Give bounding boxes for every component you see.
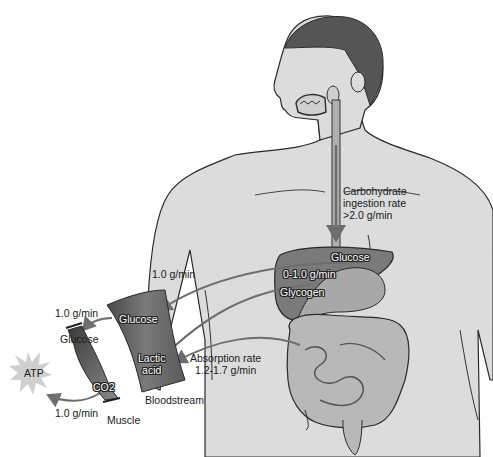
liver-glycogen-label: Glycogen — [280, 286, 324, 298]
esophagus — [332, 100, 340, 250]
absorption-rate-label: Absorption rate 1.2-1.7 g/min — [190, 352, 261, 376]
blood-lactic-acid-label: Lactic acid — [138, 352, 165, 376]
muscle-label: Muscle — [107, 414, 140, 426]
absorption-line-1: Absorption rate — [190, 352, 261, 364]
atp-label: ATP — [24, 367, 44, 379]
bloodstream-label: Bloodstream — [145, 394, 204, 406]
muscle-co2-label: CO2 — [93, 381, 115, 393]
ingestion-rate-label: Carbohydrate ingestion rate >2.0 g/min — [343, 185, 407, 221]
anatomy-illustration — [0, 0, 493, 457]
muscle-out-rate-label: 1.0 g/min — [55, 407, 98, 419]
muscle-in-rate-label: 1.0 g/min — [55, 307, 98, 319]
liver-glucose-label: Glucose — [331, 251, 370, 263]
lactic-line-2: acid — [138, 364, 165, 376]
lactic-line-1: Lactic — [138, 352, 165, 364]
liver-rate-label: 0-1.0 g/min — [283, 268, 336, 280]
head — [274, 16, 383, 140]
liver-to-blood-rate-label: 1.0 g/min — [152, 268, 195, 280]
ingestion-line-3: >2.0 g/min — [343, 209, 407, 221]
diagram-canvas: Carbohydrate ingestion rate >2.0 g/min G… — [0, 0, 493, 457]
ingestion-line-2: ingestion rate — [343, 197, 407, 209]
muscle-glucose-label: Glucose — [60, 333, 99, 345]
blood-glucose-label: Glucose — [119, 313, 158, 325]
ingestion-line-1: Carbohydrate — [343, 185, 407, 197]
absorption-line-2: 1.2-1.7 g/min — [190, 364, 261, 376]
